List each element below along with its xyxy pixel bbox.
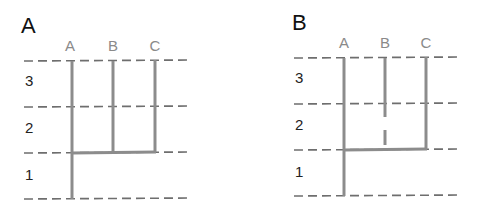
row-boundary-3-2 [24, 106, 192, 107]
row-boundary-bottom [24, 198, 192, 199]
panel-a-diagram: A A B C 3 2 1 [0, 0, 238, 206]
row-label-1: 1 [295, 163, 303, 180]
column-label-a: A [65, 37, 75, 54]
row-boundary-top [294, 57, 461, 58]
panel-b: B A B C 3 2 1 [239, 0, 477, 206]
branch-connector [72, 152, 156, 153]
panel-a: A A B C 3 2 1 [0, 0, 238, 206]
row-label-3: 3 [295, 69, 303, 86]
column-label-a: A [339, 34, 349, 51]
row-label-1: 1 [25, 166, 33, 183]
branch-connector [344, 149, 427, 150]
column-label-b: B [380, 34, 390, 51]
panel-b-diagram: B A B C 3 2 1 [239, 0, 477, 206]
column-label-b: B [108, 37, 118, 54]
row-label-2: 2 [295, 116, 303, 133]
column-label-c: C [421, 34, 432, 51]
row-label-2: 2 [25, 119, 33, 136]
row-boundary-top [24, 60, 192, 61]
row-boundary-bottom [294, 195, 461, 196]
panel-a-title: A [21, 13, 36, 38]
row-boundary-3-2 [294, 103, 461, 104]
panel-b-title: B [292, 10, 307, 35]
column-label-c: C [150, 37, 161, 54]
row-label-3: 3 [25, 72, 33, 89]
